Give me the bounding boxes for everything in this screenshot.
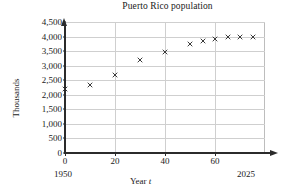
data-point-marker	[187, 41, 193, 47]
y-tick-label: 500	[20, 133, 65, 143]
x-tick-label: 60	[211, 156, 220, 166]
y-tick-label: 1,000	[20, 119, 65, 129]
x-axis-label-text: Year t	[130, 176, 151, 186]
plot-border-right	[264, 22, 265, 153]
y-tick-label: 4,500	[20, 17, 65, 27]
axis-start-year: 1950	[54, 169, 72, 179]
y-tick-label: 0	[20, 148, 65, 158]
chart-title: Puerto Rico population	[60, 1, 275, 11]
data-point-marker	[137, 57, 143, 63]
y-tick-label: 1,500	[20, 104, 65, 114]
data-point-marker	[237, 34, 243, 40]
plot-area: 05001,0001,5002,0002,5003,0003,5004,0004…	[65, 22, 265, 153]
x-axis-label: Year t	[130, 176, 151, 186]
gridline-vertical	[215, 22, 216, 153]
axis-end-year: 2025	[237, 169, 255, 179]
data-point-marker	[87, 82, 93, 88]
y-axis-arrow-icon	[61, 18, 67, 26]
gridline-vertical	[115, 22, 116, 153]
x-tick-label: 0	[63, 156, 68, 166]
chart-figure: Puerto Rico population Thousands Year t …	[0, 0, 288, 196]
x-tick-label: 20	[111, 156, 120, 166]
x-tick-label: 40	[161, 156, 170, 166]
data-point-marker	[250, 34, 256, 40]
y-axis-line	[64, 25, 66, 154]
y-tick-label: 2,500	[20, 75, 65, 85]
data-point-marker	[200, 38, 206, 44]
data-point-marker	[162, 49, 168, 55]
y-tick-label: 2,000	[20, 90, 65, 100]
data-point-marker	[212, 36, 218, 42]
y-tick-label: 3,000	[20, 61, 65, 71]
data-point-marker	[112, 72, 118, 78]
y-tick-label: 4,000	[20, 32, 65, 42]
gridline-vertical	[165, 22, 166, 153]
y-tick-label: 3,500	[20, 46, 65, 56]
data-point-marker	[225, 34, 231, 40]
x-axis-arrow-icon	[270, 150, 278, 156]
x-axis-line	[64, 152, 272, 154]
